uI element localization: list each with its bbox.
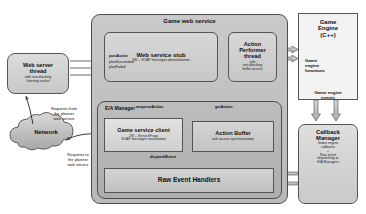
node-callback-manager: Callback Manager Game engine callbacks +… bbox=[298, 124, 358, 204]
action-performer-subtitle: with non-blocking buffer access bbox=[242, 61, 262, 72]
node-raw-event-handlers: Raw Event Handlers bbox=[104, 168, 274, 193]
label-get-action: getAction bbox=[215, 105, 233, 109]
web-server-thread-subtitle: with non-blocking listening socket bbox=[25, 76, 51, 84]
game-engine-title: Game Engine (C++) bbox=[318, 19, 338, 38]
label-requests-from-planner: Requests from the planner web service bbox=[38, 106, 90, 121]
game-web-service-label: Game web service bbox=[92, 18, 287, 24]
action-performer-title: Action Performer thread bbox=[239, 42, 266, 60]
web-server-thread-title: Web server thread bbox=[23, 63, 53, 75]
stub-method: planFailed bbox=[109, 65, 179, 71]
raw-event-handlers-title: Raw Event Handlers bbox=[158, 177, 221, 184]
arrow-engine-events-to-callback bbox=[312, 100, 341, 121]
game-service-client-subtitle: ZSI – ServiceProxy SOAP messages seriali… bbox=[121, 135, 166, 143]
node-action-performer: Action Performer thread with non-blockin… bbox=[228, 32, 277, 82]
node-web-server-thread: Web server thread with non-blocking list… bbox=[7, 53, 69, 94]
node-web-service-stub: Web service stub ZSI – SOAP messages des… bbox=[104, 32, 218, 82]
callback-manager-title: Callback Manager bbox=[316, 129, 340, 141]
callback-manager-subtitle: Game engine callbacks + Raw event dispat… bbox=[315, 142, 340, 165]
game-engine-functions-label: Game engine functions bbox=[305, 58, 325, 74]
web-service-stub-methods: postActionplanSucceededplanFailed bbox=[109, 54, 179, 71]
architecture-diagram: Game web service E/A Manager Web server … bbox=[0, 0, 366, 214]
game-engine-events-label: Game engine events bbox=[299, 90, 357, 100]
game-service-client-title: Game service client bbox=[117, 128, 170, 134]
label-dispatch-event: dispatchEvent bbox=[150, 155, 176, 159]
action-buffer-subtitle: with access synchronization bbox=[212, 138, 254, 142]
node-game-engine: Game Engine (C++) Game engine functions … bbox=[298, 13, 358, 100]
label-requests-to-planner: Requests to the planner web service bbox=[52, 152, 104, 167]
network-label: Network bbox=[16, 129, 76, 137]
node-action-buffer: Action Buffer with access synchronizatio… bbox=[192, 121, 274, 152]
node-game-service-client: Game service client ZSI – ServiceProxy S… bbox=[104, 118, 183, 152]
label-enqueue-action: enqueueAction bbox=[136, 105, 163, 109]
ea-manager-label: E/A Manager bbox=[105, 105, 135, 111]
